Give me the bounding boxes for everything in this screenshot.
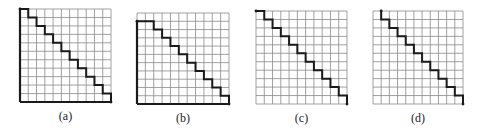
grid-diagram-b — [137, 13, 229, 104]
panel-b — [137, 13, 229, 104]
panel-c — [256, 11, 347, 104]
panel-label-b: (b) — [153, 111, 213, 126]
panel-label-d: (d) — [388, 111, 448, 126]
grid-diagram-c — [256, 11, 347, 104]
panel-label-c: (c) — [272, 111, 332, 126]
grid-diagram-d — [373, 11, 463, 104]
panel-label-a: (a) — [36, 109, 96, 124]
grid-diagram-a — [20, 9, 111, 102]
staircase-path — [20, 9, 111, 102]
panel-a — [20, 9, 111, 102]
panel-d — [373, 11, 463, 104]
staircase-path — [256, 11, 347, 104]
